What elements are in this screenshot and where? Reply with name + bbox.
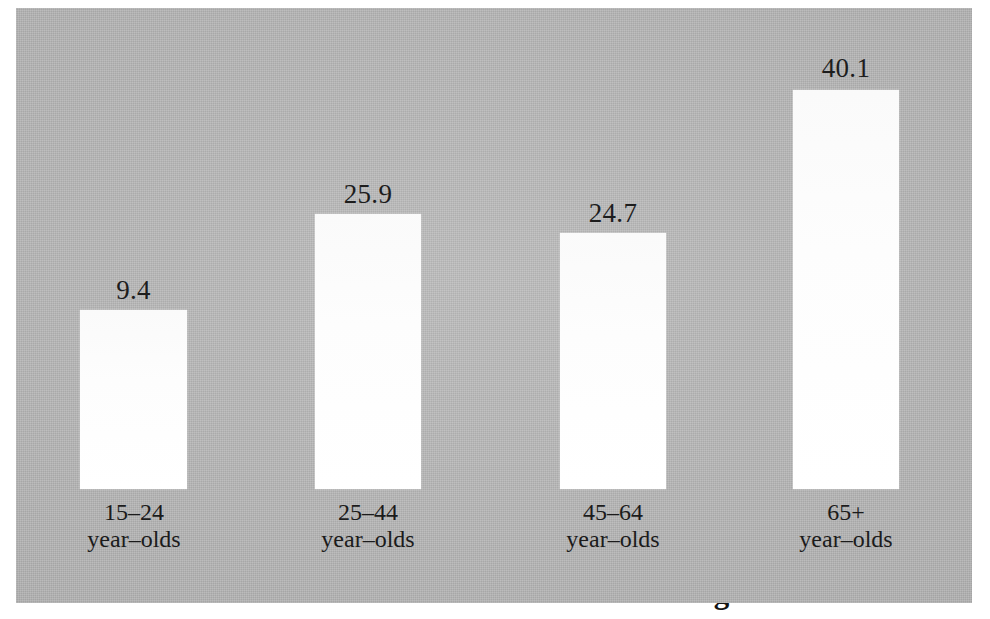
bar-0 [80, 310, 187, 489]
bar-value-label-2: 24.7 [557, 200, 669, 227]
axis-title-clip: % of Persons Interested in Reading [0, 603, 990, 619]
category-range-2: 45–64 [523, 499, 703, 526]
bar-category-label-2: 45–64year–olds [523, 499, 703, 553]
bar-value-label-1: 25.9 [312, 181, 424, 208]
bar-1 [315, 214, 421, 489]
bar-value-label-0: 9.4 [80, 277, 187, 304]
category-unit-2: year–olds [523, 526, 703, 553]
category-range-1: 25–44 [278, 499, 458, 526]
chart-page: 9.415–24year–olds25.925–44year–olds24.74… [0, 0, 990, 619]
category-unit-0: year–olds [44, 526, 224, 553]
axis-title: % of Persons Interested in Reading [0, 603, 990, 608]
category-unit-3: year–olds [756, 526, 936, 553]
category-range-0: 15–24 [44, 499, 224, 526]
bar-category-label-0: 15–24year–olds [44, 499, 224, 553]
bar-3 [793, 90, 899, 489]
bar-2 [560, 233, 666, 489]
bar-category-label-1: 25–44year–olds [278, 499, 458, 553]
category-unit-1: year–olds [278, 526, 458, 553]
bar-value-label-3: 40.1 [790, 55, 902, 82]
category-range-3: 65+ [756, 499, 936, 526]
bar-category-label-3: 65+year–olds [756, 499, 936, 553]
